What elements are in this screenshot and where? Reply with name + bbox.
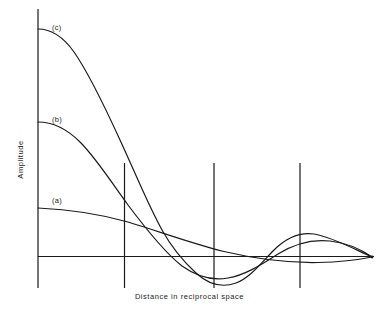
x-axis-label: Distance in reciprocal space: [0, 292, 379, 301]
curve-label-c: (c): [52, 23, 62, 32]
curve-convergence-point: [371, 256, 374, 259]
curve-label-a: (a): [52, 196, 62, 205]
curve-label-b: (b): [52, 115, 62, 124]
chart-figure: Amplitude Distance in reciprocal space (…: [0, 0, 379, 310]
y-axis-label: Amplitude: [16, 120, 25, 200]
chart-plot-area: [0, 0, 379, 310]
curve-b: [38, 122, 372, 279]
